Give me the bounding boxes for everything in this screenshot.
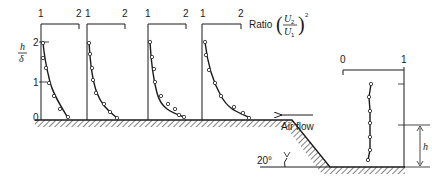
ratio-paren-open: ( [276,13,283,36]
ratio-label: Ratio ( U 2 U 1 ) 2 [249,12,309,38]
y-tick-2: 2 [33,37,39,48]
ratio-numerator-sub: 2 [291,19,295,25]
profile-station-2: 1 2 [85,8,128,120]
p2-tick-2: 2 [122,8,128,19]
height-label: h [423,141,428,152]
ratio-paren-close: ) [298,13,305,36]
y-axis-label: h δ [18,41,27,64]
ratio-exponent: 2 [305,12,309,18]
angle-annotation: 20° [257,152,290,167]
ratio-denominator-sub: 1 [291,32,295,38]
p1-tick-1: 1 [38,8,44,19]
y-axis-denominator: δ [19,53,24,64]
angle-label: 20° [257,155,272,166]
p2-tick-1: 1 [85,8,91,19]
air-flow-indicator: Air flow [281,115,315,132]
air-flow-label: Air flow [281,121,315,132]
ground [35,120,405,174]
profile-downstream: 0 1 [340,54,407,167]
ratio-text: Ratio [249,19,273,30]
p3-tick-1: 1 [145,8,151,19]
p4-tick-1: 1 [200,8,206,19]
p4-tick-2: 2 [238,8,244,19]
p5-tick-0: 0 [340,54,346,65]
p3-tick-2: 2 [183,8,189,19]
profile-station-1: 1 2 [38,8,82,120]
profile-station-4: 1 2 [200,8,251,120]
ground-hatch [35,120,405,174]
y-tick-0: 0 [33,112,39,123]
height-dimension: h [404,125,430,167]
p1-tick-2: 2 [76,8,82,19]
y-axis-numerator: h [20,41,25,52]
p5-tick-1: 1 [401,54,407,65]
ground-line [35,120,405,167]
profile-station-3: 1 2 [145,8,189,120]
flow-profile-diagram: 20° Air flow h δ 0 1 2 1 2 1 2 [0,0,432,184]
y-tick-1: 1 [33,77,39,88]
